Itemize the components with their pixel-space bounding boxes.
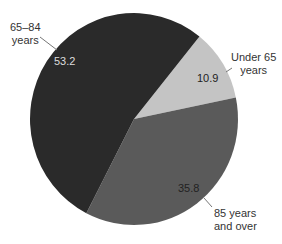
leader-line-65-84 bbox=[40, 37, 57, 50]
label-line: 85 years bbox=[214, 207, 257, 220]
leader-line-85-over bbox=[204, 198, 212, 207]
label-line: years bbox=[10, 34, 41, 47]
value-under-65: 10.9 bbox=[197, 72, 218, 84]
label-line: 65–84 bbox=[10, 21, 41, 34]
label-under-65: Under 65 years bbox=[231, 51, 276, 77]
label-85-over: 85 years and over bbox=[214, 207, 257, 233]
label-line: and over bbox=[214, 220, 257, 233]
label-line: Under 65 bbox=[231, 51, 276, 64]
value-65-84: 53.2 bbox=[54, 55, 75, 67]
label-line: years bbox=[231, 64, 276, 77]
label-65-84: 65–84 years bbox=[10, 21, 41, 47]
value-85-over: 35.8 bbox=[178, 182, 199, 194]
